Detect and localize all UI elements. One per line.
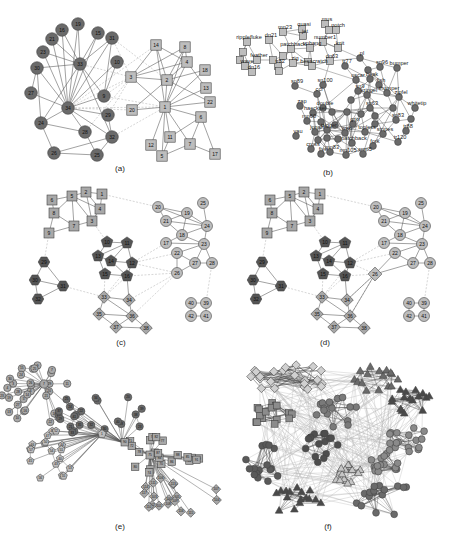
node-circle: 10 [111, 56, 124, 69]
node-circle: 9 [98, 90, 111, 103]
node-label: sn96 [376, 59, 388, 65]
caption-e: (e) [105, 522, 135, 531]
node-square: 6 [196, 112, 206, 122]
node-hexagon: 29 [38, 257, 50, 267]
caption-f: (f) [313, 522, 343, 531]
node-hexagon: 32 [32, 294, 44, 304]
node-diamond: 116 [176, 507, 185, 516]
node-square: 72 [128, 442, 135, 449]
node-label: pl [360, 50, 364, 56]
svg-text:9: 9 [266, 230, 269, 236]
svg-text:26: 26 [51, 150, 57, 156]
node-circle: 19 [5, 394, 12, 401]
node-circle: 32 [106, 131, 119, 144]
node-label: tr77 [342, 58, 352, 64]
node-square: 4 [182, 57, 192, 67]
svg-text:22: 22 [392, 250, 398, 256]
node-label: sn89 [291, 78, 303, 84]
svg-text:5: 5 [161, 153, 164, 159]
node-triangle [412, 386, 420, 393]
network-graph-c: 6521847391011131412151629303132333435363… [0, 180, 230, 345]
svg-text:21: 21 [381, 218, 387, 224]
svg-text:36: 36 [347, 313, 353, 319]
node-circle: 26 [27, 379, 34, 386]
edge [350, 274, 375, 316]
svg-text:4: 4 [99, 206, 102, 212]
svg-text:74: 74 [148, 471, 152, 475]
node-circle: 41 [419, 311, 430, 322]
node-circle [330, 423, 337, 430]
node-label: zap [297, 98, 306, 104]
node-circle [334, 442, 341, 449]
node-pentagon: 54 [48, 447, 55, 454]
svg-text:116: 116 [178, 509, 183, 513]
svg-text:13: 13 [7, 410, 11, 414]
svg-text:30: 30 [8, 377, 12, 381]
svg-text:7: 7 [43, 382, 45, 386]
node-circle [371, 483, 378, 490]
svg-text:8: 8 [184, 44, 187, 50]
svg-text:30: 30 [34, 65, 40, 71]
svg-text:23: 23 [419, 241, 425, 247]
svg-text:20: 20 [129, 107, 135, 113]
node-circle: 28 [425, 258, 436, 269]
svg-text:30: 30 [32, 277, 38, 283]
node-circle [302, 445, 309, 452]
node-circle [313, 411, 320, 418]
edge [165, 88, 206, 107]
panel-e: 1234567891011121314151617181920212223242… [0, 360, 230, 546]
node-circle [347, 404, 354, 411]
caption-a: (a) [105, 164, 135, 173]
edge [102, 194, 158, 207]
svg-text:3: 3 [12, 382, 14, 386]
svg-text:50: 50 [44, 440, 48, 444]
node-label: sn63 [366, 100, 378, 106]
node-square: 20 [127, 105, 137, 115]
node-circle [321, 407, 328, 414]
svg-text:35: 35 [96, 311, 102, 317]
edge [350, 243, 384, 263]
node-circle [405, 432, 412, 439]
svg-text:106: 106 [158, 476, 164, 480]
edge [41, 123, 85, 132]
edge [132, 253, 177, 263]
node-diamond: 35 [311, 308, 324, 321]
edge [63, 286, 104, 297]
node-circle: 19 [182, 208, 193, 219]
svg-text:5: 5 [289, 193, 292, 199]
node-circle: 24 [202, 221, 213, 232]
node-circle [344, 109, 351, 116]
svg-text:14: 14 [326, 258, 332, 264]
node-label: tr88 [403, 123, 413, 129]
panel-c: 6521847391011131412151629303132333435363… [0, 180, 230, 360]
svg-text:39: 39 [203, 300, 209, 306]
svg-text:13: 13 [95, 253, 101, 259]
svg-text:80: 80 [133, 465, 137, 469]
node-label: sn100 [317, 77, 332, 83]
svg-text:16: 16 [59, 27, 65, 33]
node-circle: 25 [91, 149, 104, 162]
node-circle [266, 442, 273, 449]
node-label: grin [350, 116, 359, 122]
node-circle: 20 [153, 202, 164, 213]
node-circle: 30 [31, 62, 44, 75]
node-circle [406, 448, 413, 455]
node-square [254, 419, 261, 426]
svg-text:19: 19 [402, 210, 408, 216]
svg-text:114: 114 [143, 485, 148, 489]
svg-text:29: 29 [41, 259, 47, 265]
node-diamond: 104 [212, 495, 221, 504]
node-circle [391, 511, 398, 518]
node-circle: 30 [6, 375, 13, 382]
edge [122, 397, 128, 442]
svg-text:15: 15 [20, 366, 24, 370]
node-circle: 38 [132, 411, 139, 418]
node-hexagon: 30 [29, 275, 41, 285]
node-square: 74 [146, 469, 153, 476]
node-pentagon: 13 [310, 250, 322, 261]
edge [60, 434, 102, 459]
edge [350, 253, 395, 263]
node-circle: 25 [63, 396, 70, 403]
node-label: jonah [309, 124, 324, 130]
node-circle [372, 113, 379, 120]
